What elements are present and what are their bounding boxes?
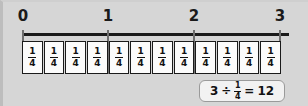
unit-fraction: 14 [223,47,231,68]
unit-fraction: 14 [115,47,123,68]
fraction-cell: 14 [65,41,86,74]
figure-panel: 0123 141414141414141414141414 3 ÷ 1 4 = … [0,0,308,106]
fraction-numerator: 1 [116,47,122,57]
fraction-denominator: 4 [116,58,122,68]
fraction-cell: 14 [260,41,281,74]
fraction-numerator: 1 [224,47,230,57]
fraction-numerator: 1 [181,47,187,57]
number-line-tick-label-1: 1 [96,8,120,24]
fraction-numerator: 1 [51,47,57,57]
unit-fraction: 14 [267,47,275,68]
fraction-denominator: 4 [203,58,209,68]
equation-divisor-numerator: 1 [235,82,241,91]
equals-sign-icon: = [244,84,254,98]
number-line-axis [23,33,289,36]
unit-fraction: 14 [28,47,36,68]
fraction-denominator: 4 [29,58,35,68]
unit-fraction: 14 [93,47,101,68]
unit-fraction: 14 [72,47,80,68]
fraction-numerator: 1 [203,47,209,57]
unit-fraction: 14 [245,47,253,68]
fraction-denominator: 4 [73,58,79,68]
divide-sign-icon: ÷ [221,84,231,98]
fraction-numerator: 1 [268,47,274,57]
fraction-denominator: 4 [94,58,100,68]
fraction-cell: 14 [239,41,260,74]
fraction-numerator: 1 [246,47,252,57]
fraction-numerator: 1 [159,47,165,57]
equation-dividend: 3 [210,84,218,98]
fraction-numerator: 1 [94,47,100,57]
fraction-numerator: 1 [138,47,144,57]
number-line-tick-label-0: 0 [11,8,35,24]
unit-fraction: 14 [137,47,145,68]
fraction-denominator: 4 [246,58,252,68]
fraction-cell: 14 [87,41,108,74]
fraction-denominator: 4 [138,58,144,68]
fraction-cell: 14 [217,41,238,74]
fraction-cell: 14 [109,41,130,74]
unit-fraction: 14 [202,47,210,68]
fraction-cell: 14 [174,41,195,74]
fraction-denominator: 4 [51,58,57,68]
fraction-numerator: 1 [29,47,35,57]
equation-divisor-denominator: 4 [235,92,241,101]
fraction-denominator: 4 [224,58,230,68]
unit-fraction: 14 [50,47,58,68]
unit-fraction: 14 [158,47,166,68]
equation-divisor-fraction: 1 4 [234,82,241,101]
equation-callout: 3 ÷ 1 4 = 12 [199,80,285,102]
number-line-tick-label-3: 3 [268,8,292,24]
equation-result: 12 [257,84,274,98]
fraction-numerator: 1 [73,47,79,57]
fraction-strip: 141414141414141414141414 [22,41,281,74]
fraction-cell: 14 [195,41,216,74]
fraction-cell: 14 [22,41,43,74]
number-line-tick-label-2: 2 [182,8,206,24]
fraction-cell: 14 [152,41,173,74]
unit-fraction: 14 [180,47,188,68]
fraction-cell: 14 [130,41,151,74]
fraction-denominator: 4 [268,58,274,68]
fraction-denominator: 4 [181,58,187,68]
fraction-cell: 14 [44,41,65,74]
fraction-denominator: 4 [159,58,165,68]
